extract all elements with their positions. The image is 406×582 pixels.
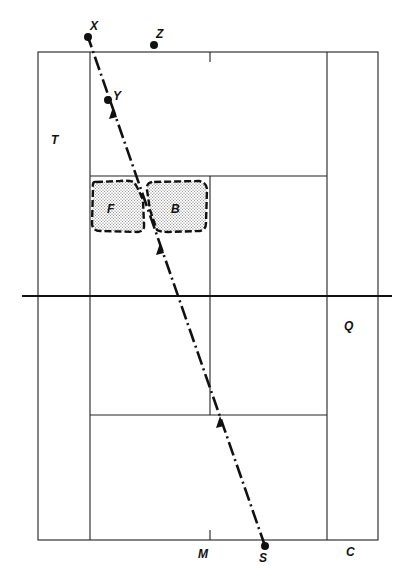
label-t: T: [51, 133, 60, 147]
point-s: [261, 542, 269, 550]
label-f: F: [107, 202, 115, 216]
label-s: S: [259, 551, 267, 565]
point-z: [150, 41, 158, 49]
point-x: [84, 33, 92, 41]
label-y: Y: [113, 89, 122, 103]
zone-f: [92, 181, 144, 232]
label-z: Z: [155, 27, 164, 41]
point-y: [104, 96, 112, 104]
label-x: X: [89, 19, 99, 33]
label-b: B: [171, 202, 180, 216]
label-m: M: [198, 547, 209, 561]
label-c: C: [346, 545, 355, 559]
label-q: Q: [344, 319, 354, 333]
court-diagram: X Z Y S T Q M C F B: [0, 0, 406, 582]
